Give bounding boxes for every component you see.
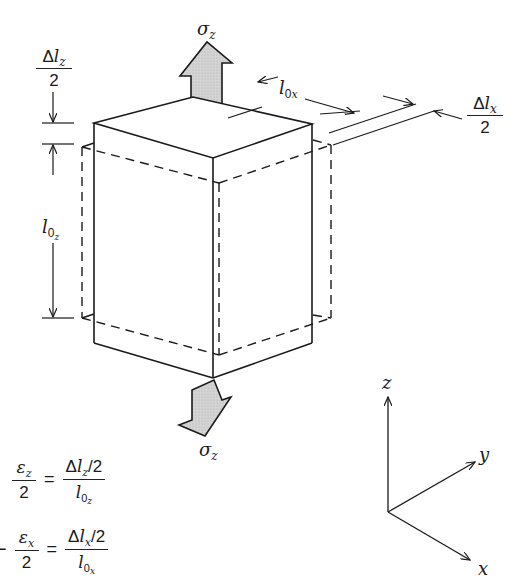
sigma-z-bottom-label: σz (199, 441, 218, 459)
l0x-label: l0x (279, 79, 298, 97)
sigma-z-top-label: σz (197, 20, 216, 38)
equation-strain-x: − εx 2 = Δlx/2 l0x (0, 526, 108, 573)
delta-lz-over-2-label: Δlz 2 (36, 48, 72, 89)
delta-lz-dimension (42, 92, 74, 175)
l0z-label: l0z (42, 218, 59, 236)
original-block-outline (82, 140, 331, 355)
axis-label-y: y (479, 446, 489, 464)
original-block-corners (82, 143, 94, 318)
deformed-block (94, 97, 312, 378)
equation-strain-z: εz 2 = Δlz/2 l0z (12, 456, 105, 503)
l0z-dimension (42, 243, 74, 318)
axis-label-x: x (478, 560, 488, 578)
coordinate-axes (388, 397, 475, 560)
axis-label-z: z (382, 374, 391, 392)
delta-lx-dimension (329, 96, 462, 145)
delta-lx-over-2-label: Δlx 2 (467, 95, 503, 136)
stress-arrow-bottom (179, 380, 231, 436)
